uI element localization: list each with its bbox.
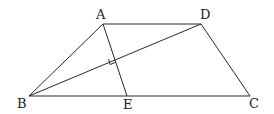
geometry-diagram: A D B E C	[0, 0, 274, 114]
label-A: A	[95, 7, 106, 22]
label-C: C	[249, 96, 259, 111]
segment-AE	[103, 24, 127, 96]
label-E: E	[123, 97, 133, 112]
segment-AB	[29, 24, 103, 96]
label-D: D	[200, 7, 210, 22]
segment-DC	[201, 24, 250, 96]
label-B: B	[17, 96, 27, 111]
